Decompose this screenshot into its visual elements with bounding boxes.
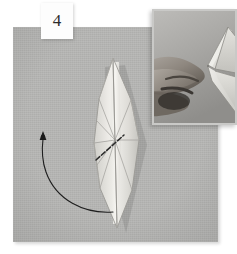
hand-detail-drawing (152, 9, 237, 125)
step-number-label: 4 (41, 3, 73, 39)
step-number-value: 4 (53, 12, 62, 31)
origami-step-figure: 4 (0, 0, 237, 254)
hand-detail-photo (152, 9, 237, 125)
